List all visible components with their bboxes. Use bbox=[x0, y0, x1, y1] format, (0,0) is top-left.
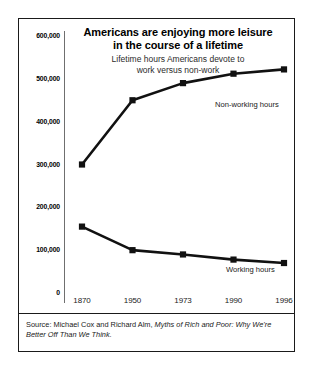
footer-divider bbox=[19, 313, 295, 314]
data-point-marker bbox=[281, 66, 287, 72]
source-citation: Source: Michael Cox and Richard Alm, Myt… bbox=[26, 320, 290, 340]
data-point-marker bbox=[281, 260, 287, 266]
series-canvas bbox=[19, 19, 295, 352]
series-line bbox=[82, 227, 284, 263]
series-label-non-working-hours: Non-working hours bbox=[215, 100, 279, 109]
source-prefix: Source: Michael Cox and Richard Alm, bbox=[26, 320, 155, 329]
series-working-hours bbox=[79, 224, 287, 267]
series-non-working-hours bbox=[79, 66, 287, 167]
chart-figure: Americans are enjoying more leisure in t… bbox=[18, 18, 295, 352]
data-point-marker bbox=[79, 161, 85, 167]
data-point-marker bbox=[79, 224, 85, 230]
data-point-marker bbox=[129, 97, 135, 103]
plot-area bbox=[19, 19, 295, 352]
data-point-marker bbox=[180, 251, 186, 257]
data-point-marker bbox=[180, 80, 186, 86]
series-label-working-hours: Working hours bbox=[226, 265, 275, 274]
data-point-marker bbox=[129, 247, 135, 253]
data-point-marker bbox=[230, 256, 236, 262]
data-point-marker bbox=[230, 71, 236, 77]
